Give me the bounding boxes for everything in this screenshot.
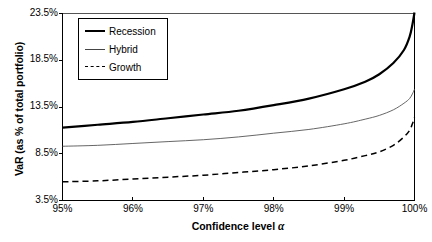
legend-item-recession: Recession: [84, 23, 168, 39]
chart-legend: Recession Hybrid Growth: [78, 18, 168, 80]
plot-area: [0, 0, 432, 242]
series-line-hybrid: [63, 89, 415, 146]
legend-label: Hybrid: [106, 44, 138, 55]
alpha-symbol: α: [278, 220, 284, 232]
series-line-growth: [63, 117, 415, 182]
var-confidence-chart: VaR (as % of total portfolio) 3.5% 8.5% …: [0, 0, 432, 242]
x-axis-title: Confidence level α: [62, 220, 414, 232]
legend-item-hybrid: Hybrid: [84, 41, 168, 57]
legend-line-dashed-icon: [84, 61, 106, 73]
x-axis-title-text: Confidence level: [192, 220, 275, 232]
legend-label: Recession: [106, 26, 156, 37]
legend-label: Growth: [106, 62, 141, 73]
legend-line-thick-solid-icon: [84, 25, 106, 37]
legend-item-growth: Growth: [84, 59, 168, 75]
legend-line-thin-solid-icon: [84, 43, 106, 55]
